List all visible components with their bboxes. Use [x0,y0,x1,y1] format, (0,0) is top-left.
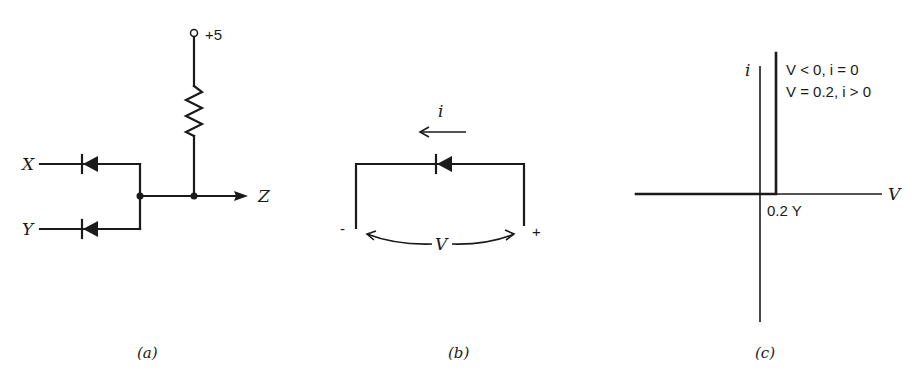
plus-terminal-label: + [532,223,541,240]
minus-terminal-label: - [340,220,345,237]
iv-characteristic-plot: i V V < 0, i = 0 V = 0.2, i > 0 0.2 Y (c… [610,0,916,374]
caption-a: (a) [137,344,158,362]
threshold-label: 0.2 Y [767,202,802,219]
i-axis-label: i [745,60,750,80]
junction-dot-right [191,193,198,200]
voltage-label: V [435,234,449,254]
input-y-label: Y [22,219,35,239]
caption-c: (c) [755,344,775,362]
diode-gate-schematic: +5 Z X Y (a) [0,0,300,374]
v-axis-label: V [888,184,902,204]
output-z-label: Z [257,186,271,206]
input-x-label: X [20,154,35,174]
caption-b: (b) [448,344,469,362]
resistor-icon [186,86,202,136]
condition-2-label: V = 0.2, i > 0 [786,83,871,100]
diode-icon [436,155,452,173]
panel-c-iv-characteristic: i V V < 0, i = 0 V = 0.2, i > 0 0.2 Y (c… [610,0,916,374]
output-arrow-icon [234,191,248,201]
supply-label: +5 [205,26,222,43]
diode-x-icon [82,155,98,173]
diode-circuit-wire [356,164,524,228]
current-arrow-icon [420,127,466,137]
supply-terminal-icon [191,30,198,37]
panel-a-diode-gate: +5 Z X Y (a) [0,0,300,374]
iv-curve [636,53,776,194]
condition-1-label: V < 0, i = 0 [786,61,859,78]
diode-convention-schematic: i - + V (b) [300,0,610,374]
diode-y-icon [82,220,98,238]
current-label: i [438,101,443,121]
panel-b-diode-convention: i - + V (b) [300,0,610,374]
